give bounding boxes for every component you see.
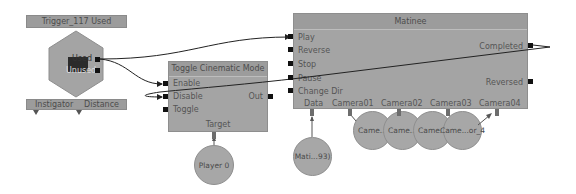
toggle-cinematic-mode-node[interactable]: Toggle Cinematic Mode Enable Disable Tog… xyxy=(168,61,268,132)
matinee-input-play-label: Play xyxy=(298,33,315,43)
toggle-input-toggle[interactable] xyxy=(163,107,168,112)
toggle-output-out[interactable] xyxy=(268,94,273,99)
matinee-input-stop-label: Stop xyxy=(298,60,316,70)
toggle-var-target-port[interactable] xyxy=(212,132,216,139)
matinee-var-camera02-label: Camera02 xyxy=(381,99,423,109)
matinee-var-camera04-label: Camera04 xyxy=(479,99,521,109)
toggle-output-out-label: Out xyxy=(248,92,263,102)
matinee-output-reversed[interactable] xyxy=(528,79,533,84)
matinee-output-completed-label: Completed xyxy=(479,42,523,52)
toggle-input-toggle-label: Toggle xyxy=(173,105,199,115)
matinee-input-pause[interactable] xyxy=(288,75,293,80)
toggle-input-enable[interactable] xyxy=(163,81,168,86)
matinee-var-camera01-label: Camera01 xyxy=(332,99,374,109)
matinee-input-reverse-label: Reverse xyxy=(298,46,330,56)
matinee-input-reverse[interactable] xyxy=(288,47,293,52)
matinee-var-camera03-label: Camera03 xyxy=(430,99,472,109)
matinee-input-change-dir[interactable] xyxy=(288,88,293,93)
kismet-canvas[interactable]: Trigger_117 Used Used Unused Instigator … xyxy=(0,0,576,194)
matinee-node[interactable]: Matinee Play Reverse Stop Pause Change D… xyxy=(293,13,528,109)
matinee-var-camera02-port[interactable] xyxy=(397,109,401,116)
player-variable[interactable]: Player 0 xyxy=(194,145,234,185)
trigger-title[interactable]: Trigger_117 Used xyxy=(26,15,127,28)
matinee-input-change-dir-label: Change Dir xyxy=(298,87,343,97)
trigger-output-unused[interactable] xyxy=(95,68,100,73)
trigger-output-unused-label: Unused xyxy=(66,66,96,76)
matinee-output-reversed-label: Reversed xyxy=(486,78,523,88)
player-variable-label: Player 0 xyxy=(199,161,230,170)
distance-connector-icon[interactable] xyxy=(76,110,82,115)
matinee-var-camera03-port[interactable] xyxy=(446,109,450,116)
matinee-node-title: Matinee xyxy=(294,14,527,30)
trigger-title-label: Trigger_117 Used xyxy=(42,17,111,26)
matinee-input-pause-label: Pause xyxy=(298,74,322,84)
trigger-var-instigator: Instigator xyxy=(35,100,73,109)
camera-variable-4[interactable]: Came...or_4 xyxy=(443,111,482,150)
toggle-input-disable-label: Disable xyxy=(173,92,203,102)
camera-variable-4-label: Came...or_4 xyxy=(440,126,485,135)
trigger-output-used-label: Used xyxy=(72,54,92,64)
matinee-data-variable-label: Mati...93) xyxy=(295,152,331,161)
matinee-data-variable[interactable]: Mati...93) xyxy=(293,137,332,176)
matinee-var-camera04-port[interactable] xyxy=(495,109,499,116)
matinee-output-completed[interactable] xyxy=(528,43,533,48)
trigger-variable-bar: Instigator Distance xyxy=(26,99,127,110)
matinee-input-stop[interactable] xyxy=(288,61,293,66)
toggle-node-title: Toggle Cinematic Mode xyxy=(169,62,267,77)
toggle-input-disable[interactable] xyxy=(163,94,168,99)
instigator-connector-icon[interactable] xyxy=(33,110,39,115)
toggle-var-target-label: Target xyxy=(169,120,267,130)
matinee-var-data-port[interactable] xyxy=(310,109,314,116)
matinee-var-data-label: Data xyxy=(304,99,323,109)
matinee-input-play[interactable] xyxy=(288,34,293,39)
toggle-input-enable-label: Enable xyxy=(173,79,200,89)
matinee-var-camera01-port[interactable] xyxy=(348,109,352,116)
trigger-var-distance: Distance xyxy=(84,100,119,109)
trigger-output-used[interactable] xyxy=(95,57,100,62)
